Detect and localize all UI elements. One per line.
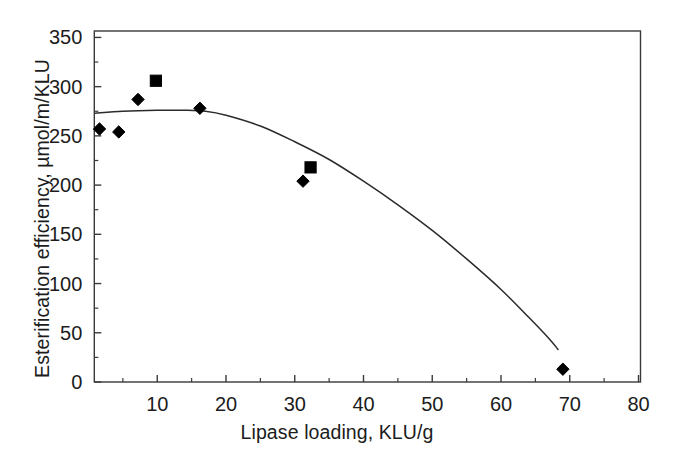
figure-container: 050100150200250300350 1020304050607080 E… [0, 0, 674, 463]
x-axis-title: Lipase loading, KLU/g [0, 421, 674, 444]
axis-ticks [94, 37, 638, 382]
x-tick-label: 20 [215, 394, 237, 414]
x-tick-label: 70 [559, 394, 581, 414]
x-tick-label: 50 [421, 394, 443, 414]
axes-frame [94, 31, 640, 382]
x-tick-label: 10 [146, 394, 168, 414]
x-tick-label: 60 [490, 394, 512, 414]
data-markers [93, 75, 569, 375]
x-tick-label: 40 [352, 394, 374, 414]
x-tick-label: 80 [627, 394, 649, 414]
y-axis-title: Esterification efficiency, µmol/m/KLU [31, 29, 54, 409]
x-tick-label: 30 [284, 394, 306, 414]
fitted-curve-path [95, 110, 558, 349]
